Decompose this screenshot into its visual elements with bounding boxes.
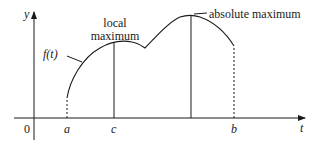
- local-max-line1: local: [90, 17, 140, 29]
- function-label: f(t): [43, 48, 58, 60]
- diagram-canvas: [0, 0, 318, 148]
- function-label-pointer: [67, 56, 82, 62]
- tick-label-c: c: [111, 123, 116, 135]
- absolute-max-pointer: [194, 13, 207, 14]
- y-axis-label: y: [24, 8, 29, 20]
- local-max-line2: maximum: [90, 30, 140, 42]
- t-axis-label: t: [300, 122, 303, 134]
- extrema-diagram: y t 0 a c b f(t) local maximum absolute …: [0, 0, 318, 148]
- tick-label-b: b: [231, 123, 237, 135]
- absolute-max-annotation: absolute maximum: [209, 8, 301, 20]
- local-max-annotation: local maximum: [90, 17, 140, 42]
- origin-label: 0: [24, 123, 30, 135]
- tick-label-a: a: [64, 123, 70, 135]
